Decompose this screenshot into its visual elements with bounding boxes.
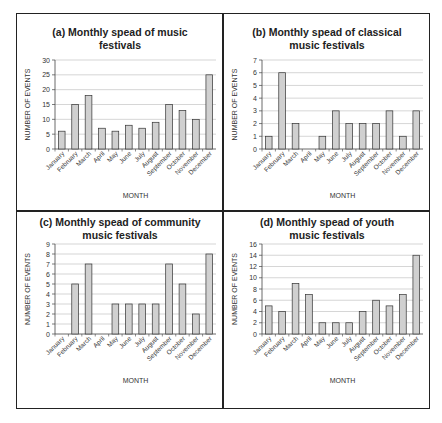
x-tick-label: June [118,334,133,349]
bar [346,323,353,334]
y-tick-label: 0 [46,331,50,338]
bar [413,255,420,334]
bar [193,314,200,334]
bar-chart-a: 051015202530JanuaryFebruaryMarchAprilMay… [17,14,223,211]
x-axis-label: MONTH [123,192,149,199]
bar [58,131,65,149]
bar [292,283,299,334]
bar [265,136,272,149]
bar-chart-c: 0123456789JanuaryFebruaryMarchAprilMayJu… [17,211,223,408]
bar [139,128,146,149]
bar [85,264,92,334]
y-tick-label: 2 [46,311,50,318]
bar [166,264,173,334]
bar-chart-d: 0246810121416JanuaryFebruaryMarchAprilMa… [224,211,430,408]
y-tick-label: 5 [46,131,50,138]
bar [112,131,119,149]
y-tick-label: 20 [42,86,50,93]
x-tick-label: March [282,334,300,352]
bar [373,124,380,149]
x-axis-label: MONTH [330,192,356,199]
bar [319,323,326,334]
chart-panel-c: (c) Monthly spead of community music fes… [17,211,223,408]
x-axis-label: MONTH [330,377,356,384]
bar [359,124,366,149]
bar [139,304,146,334]
x-tick-label: April [92,334,107,349]
bar [206,75,213,149]
bar [332,323,339,334]
y-tick-label: 25 [42,71,50,78]
x-tick-label: May [312,334,327,349]
y-axis-label: NUMBER OF EVENTS [24,68,31,140]
bar [99,128,106,149]
x-tick-label: May [105,334,120,349]
bar [386,306,393,334]
bar [265,306,272,334]
y-tick-label: 6 [46,271,50,278]
y-tick-label: 2 [253,319,257,326]
y-tick-label: 30 [42,57,50,64]
bar [373,300,380,334]
bar [125,125,132,149]
chart-panel-b: (b) Monthly spead of classical music fes… [224,14,430,211]
y-tick-label: 14 [249,252,257,259]
y-tick-label: 3 [253,107,257,114]
bar [72,284,79,334]
bar [319,136,326,149]
bar [72,105,79,150]
y-tick-label: 16 [249,241,257,248]
y-tick-label: 0 [253,331,257,338]
y-axis-label: NUMBER OF EVENTS [231,68,238,140]
y-axis-label: NUMBER OF EVENTS [24,253,31,325]
y-tick-label: 7 [46,261,50,268]
x-tick-label: March [75,149,93,167]
bar [279,73,286,149]
chart-panel-d: (d) Monthly spead of youth music festiva… [224,211,430,408]
bar [166,105,173,150]
bar [386,111,393,149]
y-tick-label: 1 [46,321,50,328]
y-tick-label: 8 [46,251,50,258]
y-tick-label: 1 [253,133,257,140]
y-tick-label: 10 [42,116,50,123]
bar [206,254,213,334]
y-tick-label: 6 [253,69,257,76]
bar [125,304,132,334]
y-tick-label: 10 [249,274,257,281]
y-tick-label: 15 [42,101,50,108]
bar [292,124,299,149]
bar [306,295,313,334]
bar-chart-b: 01234567JanuaryFebruaryMarchAprilMayJune… [224,14,430,211]
bar [85,96,92,149]
x-tick-label: May [105,149,120,164]
y-tick-label: 4 [253,95,257,102]
bar [193,119,200,149]
y-tick-label: 3 [46,301,50,308]
x-tick-label: June [325,334,340,349]
x-tick-label: March [75,334,93,352]
x-tick-label: June [118,149,133,164]
bar [279,312,286,335]
x-axis-label: MONTH [123,377,149,384]
bar [152,304,159,334]
y-tick-label: 5 [253,82,257,89]
x-tick-label: May [312,149,327,164]
bar [346,124,353,149]
bar [112,304,119,334]
y-tick-label: 5 [46,281,50,288]
y-tick-label: 4 [46,291,50,298]
bar [179,110,186,149]
x-tick-label: April [299,149,314,164]
y-tick-label: 0 [253,146,257,153]
y-tick-label: 7 [253,57,257,64]
bar [400,295,407,334]
bar [332,111,339,149]
bar [179,284,186,334]
y-tick-label: 2 [253,120,257,127]
y-axis-label: NUMBER OF EVENTS [231,253,238,325]
y-tick-label: 4 [253,308,257,315]
chart-panel-a: (a) Monthly spead of music festivals 051… [17,14,223,211]
x-tick-label: April [299,334,314,349]
y-tick-label: 0 [46,146,50,153]
